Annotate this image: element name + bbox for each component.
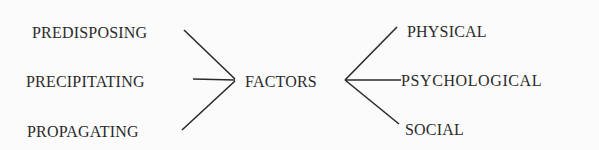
node-physical: PHYSICAL: [407, 24, 487, 40]
line-physical: [345, 27, 397, 80]
node-precipitating: PRECIPITATING: [26, 74, 145, 90]
node-propagating: PROPAGATING: [27, 124, 139, 140]
node-factors: FACTORS: [245, 74, 317, 90]
node-psychological: PSYCHOLOGICAL: [401, 73, 542, 89]
node-social: SOCIAL: [405, 122, 464, 138]
line-predisposing: [184, 30, 235, 79]
line-propagating: [182, 81, 235, 130]
line-precipitating: [193, 79, 235, 80]
node-predisposing: PREDISPOSING: [32, 25, 147, 41]
factors-diagram: PREDISPOSING PRECIPITATING PROPAGATING F…: [0, 0, 599, 150]
line-social: [345, 80, 399, 124]
